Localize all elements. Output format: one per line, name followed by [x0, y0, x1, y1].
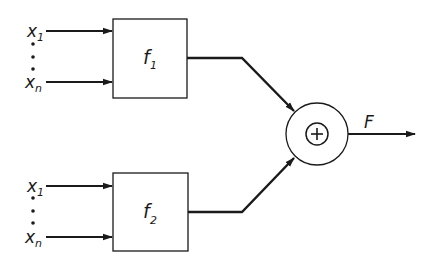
input-subscript: 1 [37, 186, 44, 199]
ellipsis-dots [31, 42, 35, 71]
ellipsis-dots [31, 196, 35, 225]
connector-f2-to-summer [188, 158, 294, 212]
input-x1-bottom: x 1 [26, 176, 112, 199]
output-label: F [364, 112, 374, 132]
block-f2-group: x 1 x n f 2 [24, 158, 294, 251]
block-subscript: 2 [150, 214, 157, 227]
summing-junction [286, 103, 348, 165]
input-xn-top: x n [24, 72, 112, 95]
input-subscript: n [35, 237, 42, 250]
input-x1-top: x 1 [26, 21, 112, 44]
block-diagram: x 1 x n f 1 x 1 [0, 0, 439, 270]
input-xn-bottom: x n [24, 227, 112, 250]
function-block-f2 [113, 173, 188, 251]
input-subscript: n [35, 82, 42, 95]
block-f1-group: x 1 x n f 1 [24, 19, 294, 111]
block-subscript: 1 [150, 59, 157, 72]
connector-f1-to-summer [187, 58, 294, 111]
output-group: F [348, 112, 415, 134]
input-subscript: 1 [37, 31, 44, 44]
